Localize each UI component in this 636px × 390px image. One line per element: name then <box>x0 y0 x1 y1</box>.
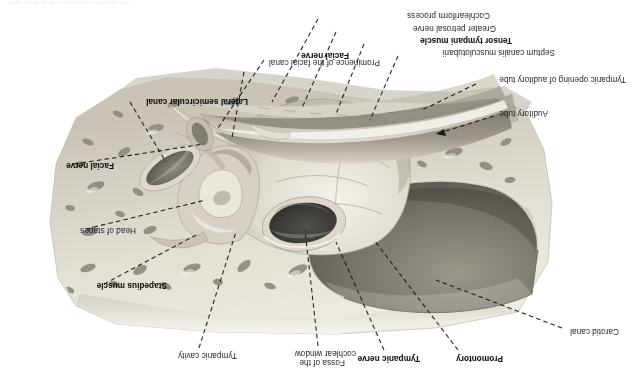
label-cochleariform-process: Cochleariform process <box>407 11 490 20</box>
label-facial-nerve-right: Facial nerve <box>66 161 114 170</box>
label-fossa-cochlear-window-line1: Fossa of the <box>299 358 345 367</box>
label-tympanic-cavity: Tympanic cavity <box>178 351 237 360</box>
leader-arrowhead <box>436 129 446 136</box>
rotated-illustration-plate: Carotid canal Promontory Tympanic nerve … <box>0 0 636 390</box>
label-tensor-tympani-muscle: Tensor tympani muscle <box>420 36 512 45</box>
label-promontory: Promontory <box>456 354 503 363</box>
label-lateral-semicircular-canal: Lateral semicircular canal <box>146 97 248 106</box>
clipped-caption-fragment: the tympanic cavity and the auditory tub… <box>8 0 129 6</box>
anatomical-figure: Carotid canal Promontory Tympanic nerve … <box>0 0 636 390</box>
label-greater-petrosal-nerve: Greater petrosal nerve <box>413 24 496 33</box>
label-fossa-cochlear-window-line2: cochlear window <box>295 349 356 358</box>
label-tympanic-nerve: Tympanic nerve <box>358 354 420 363</box>
label-stapedius-muscle: Stapedius muscle <box>97 281 167 290</box>
label-carotid-canal: Carotid canal <box>570 327 619 336</box>
label-facial-nerve-bottom: Facial nerve <box>301 51 349 60</box>
label-head-of-stapes: Head of stapes <box>80 226 136 235</box>
label-septum-canalis-musculotubarii: Septum canalis musculotubarii <box>443 48 556 57</box>
label-auditory-tube: Auditory tube <box>499 109 548 118</box>
label-tympanic-opening-auditory-tube: Tympanic opening of auditory tube <box>499 75 626 84</box>
